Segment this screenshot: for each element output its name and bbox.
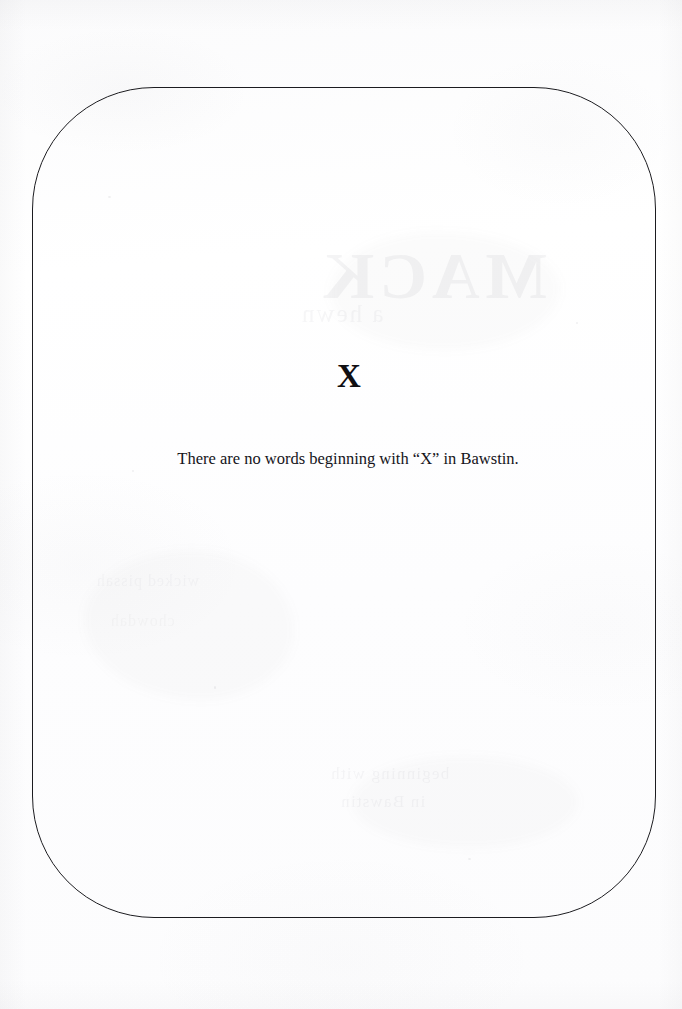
page-border-frame bbox=[32, 87, 656, 918]
entry-note-text: There are no words beginning with “X” in… bbox=[32, 448, 656, 469]
scanned-book-page: MACK a hewn wicked pissah chowdah beginn… bbox=[0, 0, 682, 1009]
letter-section-heading: X bbox=[32, 360, 656, 393]
